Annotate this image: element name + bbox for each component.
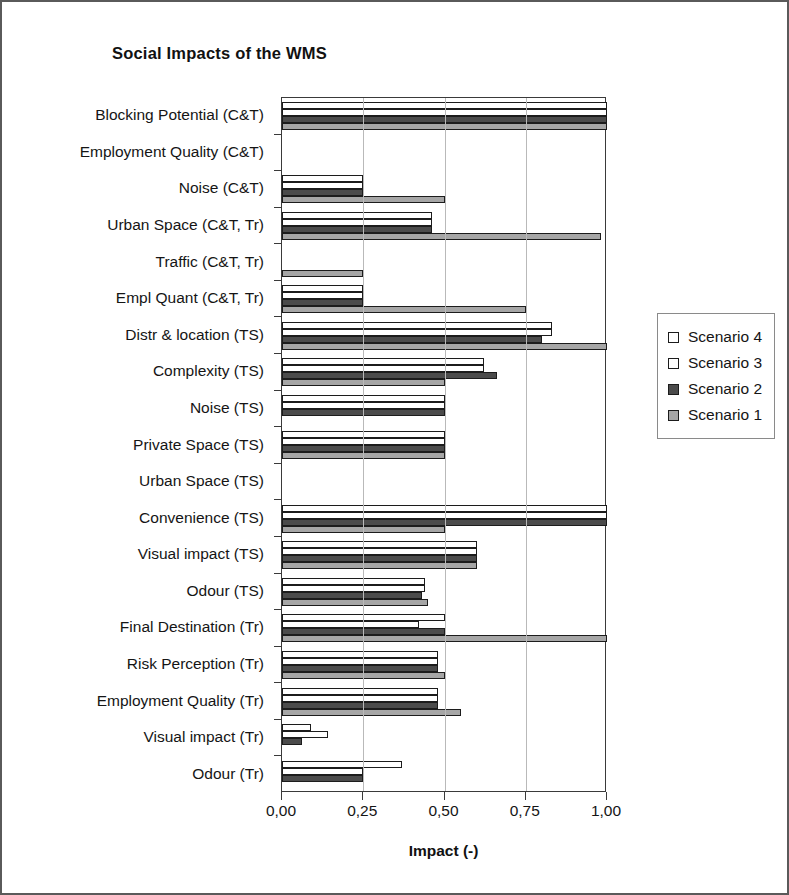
bar xyxy=(282,658,438,665)
y-axis-tick xyxy=(274,316,281,317)
y-axis-tick-label: Noise (C&T) xyxy=(179,179,264,197)
bar xyxy=(282,329,552,336)
legend-label: Scenario 4 xyxy=(688,328,762,346)
x-axis-tick xyxy=(606,792,607,800)
y-axis-tick xyxy=(274,280,281,281)
legend-label: Scenario 3 xyxy=(688,354,762,372)
y-axis-tick-label: Final Destination (Tr) xyxy=(120,618,264,636)
bar xyxy=(282,365,484,372)
x-axis-tick xyxy=(525,792,526,800)
bar xyxy=(282,731,328,738)
chart-title: Social Impacts of the WMS xyxy=(112,44,327,63)
bar-group xyxy=(282,500,605,537)
y-axis-tick-label: Blocking Potential (C&T) xyxy=(95,106,264,124)
bar xyxy=(282,548,477,555)
y-axis-tick xyxy=(274,609,281,610)
bar xyxy=(282,358,484,365)
bar xyxy=(282,233,601,240)
y-axis-tick xyxy=(274,390,281,391)
bar xyxy=(282,621,419,628)
bar-group xyxy=(282,171,605,208)
bar xyxy=(282,182,363,189)
y-axis-labels: Blocking Potential (C&T)Employment Quali… xyxy=(2,97,274,792)
y-axis-tick xyxy=(274,134,281,135)
y-axis-tick-label: Employment Quality (C&T) xyxy=(80,143,264,161)
bar xyxy=(282,599,428,606)
bar xyxy=(282,285,363,292)
y-axis-tick xyxy=(274,463,281,464)
x-axis-tick-label: 0,00 xyxy=(266,802,296,820)
bar xyxy=(282,175,363,182)
gridline xyxy=(526,98,527,791)
bar-group xyxy=(282,354,605,391)
bar-group xyxy=(282,756,605,793)
x-axis-tick-label: 0,50 xyxy=(428,802,458,820)
y-axis-tick xyxy=(274,243,281,244)
bar-rows xyxy=(282,98,605,791)
bar xyxy=(282,761,402,768)
bar xyxy=(282,322,552,329)
y-axis-tick-label: Urban Space (C&T, Tr) xyxy=(107,216,264,234)
legend-swatch-icon xyxy=(668,384,679,395)
plot-area xyxy=(281,97,606,792)
y-axis-tick xyxy=(274,646,281,647)
bar xyxy=(282,562,477,569)
legend-swatch-icon xyxy=(668,410,679,421)
x-axis-tick-label: 1,00 xyxy=(591,802,621,820)
legend: Scenario 4Scenario 3Scenario 2Scenario 1 xyxy=(657,313,775,439)
bar-group xyxy=(282,135,605,172)
y-axis-tick-label: Noise (TS) xyxy=(190,399,264,417)
legend-item[interactable]: Scenario 4 xyxy=(668,324,766,350)
bar xyxy=(282,306,526,313)
bar-group xyxy=(282,98,605,135)
y-axis-tick xyxy=(274,426,281,427)
y-axis-tick xyxy=(274,170,281,171)
bar xyxy=(282,226,432,233)
y-axis-tick xyxy=(274,682,281,683)
bar xyxy=(282,709,461,716)
legend-swatch-icon xyxy=(668,358,679,369)
y-axis-tick-label: Private Space (TS) xyxy=(133,436,264,454)
bar xyxy=(282,555,477,562)
bar-group xyxy=(282,720,605,757)
y-axis-tick xyxy=(274,536,281,537)
y-axis-tick-label: Urban Space (TS) xyxy=(139,472,264,490)
y-axis-tick-label: Visual impact (Tr) xyxy=(143,728,264,746)
bar xyxy=(282,189,363,196)
bar xyxy=(282,336,542,343)
legend-item[interactable]: Scenario 1 xyxy=(668,402,766,428)
y-axis-tick-label: Visual impact (TS) xyxy=(138,545,264,563)
bar xyxy=(282,688,438,695)
bar xyxy=(282,212,432,219)
bar-group xyxy=(282,427,605,464)
y-axis-tick-label: Complexity (TS) xyxy=(153,362,264,380)
gridline xyxy=(445,98,446,791)
bar-group xyxy=(282,244,605,281)
bar xyxy=(282,651,438,658)
y-axis-tick xyxy=(274,207,281,208)
bar xyxy=(282,724,311,731)
y-axis-tick-label: Traffic (C&T, Tr) xyxy=(156,253,265,271)
bar-group xyxy=(282,391,605,428)
bar xyxy=(282,592,422,599)
legend-item[interactable]: Scenario 2 xyxy=(668,376,766,402)
legend-item[interactable]: Scenario 3 xyxy=(668,350,766,376)
bar xyxy=(282,372,497,379)
chart-page: Social Impacts of the WMS Blocking Poten… xyxy=(0,0,789,895)
legend-label: Scenario 2 xyxy=(688,380,762,398)
bar xyxy=(282,585,425,592)
bar-group xyxy=(282,281,605,318)
legend-label: Scenario 1 xyxy=(688,406,762,424)
bar xyxy=(282,702,438,709)
bar xyxy=(282,578,425,585)
x-axis-tick xyxy=(362,792,363,800)
bar xyxy=(282,292,363,299)
bar xyxy=(282,738,302,745)
y-axis-tick-label: Risk Perception (Tr) xyxy=(127,655,264,673)
bar-group xyxy=(282,647,605,684)
y-axis-tick xyxy=(274,573,281,574)
x-axis-tick-label: 0,25 xyxy=(347,802,377,820)
y-axis-tick-label: Employment Quality (Tr) xyxy=(97,692,264,710)
gridline xyxy=(363,98,364,791)
legend-swatch-icon xyxy=(668,332,679,343)
